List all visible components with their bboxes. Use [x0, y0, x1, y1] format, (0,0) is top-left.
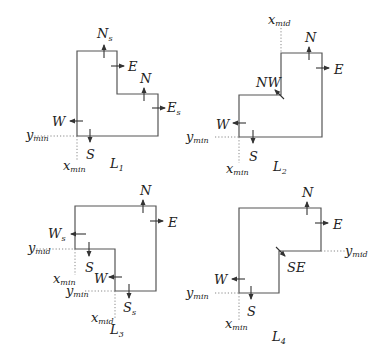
l3-label-w: W: [94, 271, 109, 286]
l3-label-ws: Ws: [48, 226, 65, 243]
panel-l2: xmid N E NW W ymin S xmin L2: [185, 12, 344, 177]
l4-label-n: N: [301, 185, 314, 200]
l2-label-xmin: xmin: [226, 161, 249, 177]
panel-l3: N E Ws ymid S xmin W ymin Ss xmid L3: [27, 183, 178, 339]
panel-l4: N E ymid SE W ymin S xmin L4: [185, 185, 368, 346]
l1-label-xmin: xmin: [63, 158, 86, 174]
l3-label-e: E: [167, 215, 178, 230]
l4-label-e: E: [332, 217, 343, 232]
l2-label-xmid: xmid: [268, 12, 291, 28]
l3-label-n: N: [139, 183, 152, 198]
l1-label-w: W: [52, 114, 67, 129]
l4-label-ymid: ymid: [344, 243, 368, 259]
l2-label-e: E: [333, 62, 344, 77]
l4-label-xmin: xmin: [225, 316, 248, 332]
l3-label-ymid: ymid: [27, 240, 51, 256]
l2-label-n: N: [304, 30, 317, 45]
l2-label-ymin: ymin: [185, 129, 209, 145]
l1-label-e: E: [127, 59, 138, 74]
l4-label-w: W: [214, 272, 229, 287]
l1-label-n: N: [139, 71, 152, 86]
l4-panel-title: L4: [271, 329, 286, 346]
l4-label-ymin: ymin: [185, 285, 209, 301]
l2-label-w: W: [216, 117, 231, 132]
l3-outline: [75, 206, 156, 291]
l1-outline: [77, 51, 158, 136]
l2-panel-title: L2: [272, 159, 287, 176]
l2-label-nw: NW: [255, 75, 282, 90]
l3-panel-title: L3: [109, 322, 124, 339]
l-shape-diagram: Ns E N Es W ymin S xmin L1 xmid N E NW W…: [0, 0, 387, 360]
l3-label-ymin: ymin: [65, 283, 89, 299]
l1-label-es: Es: [166, 100, 181, 117]
l4-label-se: SE: [287, 260, 306, 275]
l1-label-s: S: [86, 147, 95, 162]
l1-panel-title: L1: [109, 156, 124, 173]
l3-label-ss: Ss: [123, 300, 136, 317]
l1-label-ymin: ymin: [25, 127, 49, 143]
panel-l1: Ns E N Es W ymin S xmin L1: [25, 26, 181, 174]
l4-label-s: S: [247, 304, 256, 319]
l1-label-ns: Ns: [96, 26, 112, 43]
l3-label-s: S: [85, 260, 94, 275]
l2-label-s: S: [249, 149, 258, 164]
